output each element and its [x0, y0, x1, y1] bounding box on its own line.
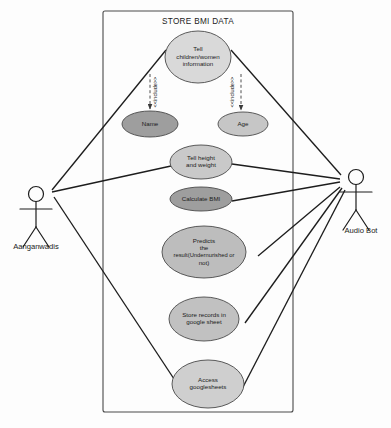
use-case-calculate-bmi[interactable]: Calculate BMI — [170, 187, 232, 211]
assoc-audiobot-tell-height — [232, 164, 340, 179]
use-case-predicts-the-result-label: not) — [199, 259, 210, 266]
use-case-name[interactable]: Name — [122, 111, 178, 137]
use-case-nodes: Tellchildren/womeninformationNameAgeTell… — [122, 31, 268, 408]
assoc-aanganwadis-tell-height — [52, 166, 171, 192]
actor-aanganwadis-head-icon — [29, 187, 44, 202]
assoc-audiobot-access-googlesheets — [243, 190, 345, 387]
use-case-predicts-the-result-label: the — [200, 244, 209, 251]
use-case-tell-height-and-weight-label: and weight — [186, 161, 216, 168]
use-case-access-googlesheets-label: googlesheets — [190, 383, 227, 390]
actor-audio-bot-label: Audio Bot — [345, 226, 379, 235]
use-case-tell-height-and-weight-label: Tell height — [187, 154, 215, 161]
use-case-age-label: Age — [237, 120, 249, 127]
use-case-predicts-the-result-label: result(Undernurished or — [174, 252, 235, 258]
include-age-stereotype-label: <<include>> — [229, 77, 235, 108]
include-name: <<include>> — [150, 74, 158, 109]
actor-aanganwadis-label: Aanganwadis — [13, 242, 59, 251]
assoc-audiobot-calculate-bmi — [232, 182, 340, 201]
system-boundary-title: STORE BMI DATA — [162, 17, 234, 26]
actor-audio-bot[interactable]: Audio Bot — [340, 170, 378, 236]
assoc-audiobot-predicts — [258, 187, 340, 256]
use-case-calculate-bmi-label: Calculate BMI — [182, 195, 221, 202]
use-case-tell-children-women-information-label: children/women — [176, 53, 220, 60]
use-case-store-records-in-google-sheet-label: google sheet — [186, 318, 222, 325]
use-case-tell-children-women-information[interactable]: Tellchildren/womeninformation — [165, 31, 231, 83]
use-case-diagram-canvas: STORE BMI DATA <<include>><<include>> Te… — [0, 0, 391, 428]
use-case-store-records-in-google-sheet-label: Store records in — [182, 311, 226, 318]
include-age: <<include>> — [229, 74, 241, 110]
use-case-tell-children-women-information-label: information — [183, 60, 214, 67]
use-case-tell-height-and-weight[interactable]: Tell heightand weight — [170, 145, 232, 179]
include-name-stereotype-label: <<include>> — [152, 77, 158, 108]
use-case-name-label: Name — [142, 120, 159, 127]
use-case-predicts-the-result[interactable]: Predictstheresult(Undernurished ornot) — [162, 226, 246, 278]
use-case-store-records-in-google-sheet[interactable]: Store records ingoogle sheet — [169, 297, 239, 341]
use-case-predicts-the-result-label: Predicts — [193, 237, 215, 244]
use-case-access-googlesheets[interactable]: Accessgooglesheets — [172, 360, 244, 408]
use-case-tell-children-women-information-label: Tell — [193, 45, 202, 52]
use-case-access-googlesheets-label: Access — [198, 376, 218, 383]
actor-aanganwadis[interactable]: Aanganwadis — [13, 187, 59, 252]
assoc-aanganwadis-access-googlesheets — [54, 197, 178, 385]
use-case-age[interactable]: Age — [218, 112, 268, 136]
actor-audio-bot-head-icon — [349, 170, 364, 185]
diagram-svg: STORE BMI DATA <<include>><<include>> Te… — [0, 0, 391, 428]
